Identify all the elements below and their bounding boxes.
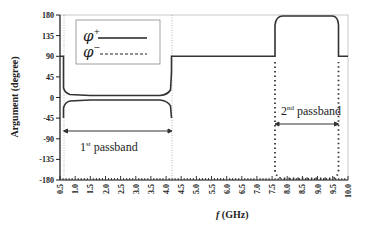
passband1-label: 1st passband (80, 140, 138, 154)
legend-phi-minus-sup: − (94, 43, 101, 52)
series-phi-minus-band2 (275, 62, 339, 179)
x-tick-label: 6.0 (223, 184, 232, 194)
x-tick-label: 3.0 (132, 184, 141, 194)
y-tick-label: 90 (46, 52, 54, 61)
phase-chart: 180 135 90 45 0 -45 -90 -135 -180 0.5 1. (0, 0, 378, 233)
x-axis-title: f (GHz) (216, 209, 249, 221)
x-tick-label: 3.5 (147, 184, 156, 194)
y-tick-labels: 180 135 90 45 0 -45 -90 -135 -180 (39, 11, 54, 185)
legend-phi-minus-base: φ (83, 43, 94, 61)
x-tick-label: 9.5 (329, 184, 338, 194)
x-tick-label: 6.5 (238, 184, 247, 194)
x-tick-label: 4.0 (162, 184, 171, 194)
y-tick-label: -90 (43, 135, 54, 144)
x-tick-label: 2.0 (102, 184, 111, 194)
y-tick-label: 135 (42, 32, 54, 41)
x-tick-label: 5.0 (192, 184, 201, 194)
y-tick-label: -135 (39, 155, 54, 164)
y-axis-title: Argument (degree) (9, 56, 21, 137)
x-tick-label: 8.5 (298, 184, 307, 194)
legend-phi-plus-sup: + (94, 27, 101, 36)
passband2-label: 2nd passband (281, 104, 341, 118)
x-tick-labels: 0.5 1.0 1.5 2.0 2.5 3.0 3.5 4.0 4.5 5.0 … (56, 184, 353, 198)
passband1-arrow (64, 129, 173, 133)
x-tick-label: 10.0 (344, 184, 353, 198)
x-tick-label: 5.5 (208, 184, 217, 194)
x-tick-label: 8.0 (283, 184, 292, 194)
y-tick-label: 45 (46, 73, 54, 82)
x-tick-label: 9.0 (314, 184, 323, 194)
series-phi-minus (64, 100, 172, 118)
x-tick-label: 4.5 (177, 184, 186, 194)
x-tick-label: 7.0 (253, 184, 262, 194)
x-tick-label: 1.5 (86, 184, 95, 194)
x-axis-title-unit: (GHz) (219, 209, 248, 221)
y-tick-label: 180 (42, 11, 54, 20)
y-tick-label: -180 (39, 176, 54, 185)
passband2-text: passband (294, 104, 341, 118)
passband2-arrow (275, 122, 339, 126)
passband1-text: passband (91, 140, 138, 154)
y-tick-label: 0 (50, 94, 54, 103)
x-tick-label: 7.5 (268, 184, 277, 194)
legend: φ+ φ− (76, 20, 160, 64)
x-tick-label: 1.0 (71, 184, 80, 194)
y-tick-label: -45 (43, 114, 54, 123)
x-tick-label: 2.5 (117, 184, 126, 194)
x-tick-label: 0.5 (56, 184, 65, 194)
